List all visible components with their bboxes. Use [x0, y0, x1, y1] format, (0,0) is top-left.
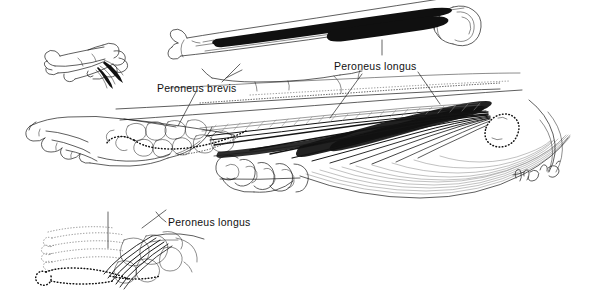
illustration-canvas: Peroneus brevis Peroneus longus Peroneus… — [0, 0, 589, 293]
anatomical-figure: Peroneus brevis Peroneus longus Peroneus… — [0, 0, 589, 293]
label-peroneus-longus-upper: Peroneus longus — [334, 60, 417, 72]
label-peroneus-longus-lower: Peroneus longus — [168, 216, 251, 228]
label-peroneus-brevis: Peroneus brevis — [157, 82, 237, 94]
